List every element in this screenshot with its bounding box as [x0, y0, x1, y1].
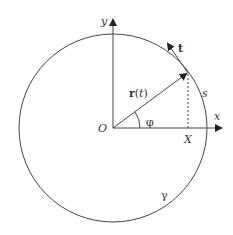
origin-label: O — [98, 122, 107, 135]
y-axis-label: y — [100, 15, 108, 28]
position-vector-label: r(t) — [129, 87, 148, 100]
angle-arc — [135, 112, 140, 128]
angle-label: φ — [146, 116, 154, 129]
x-axis-label: x — [214, 110, 221, 123]
circle-diagram: y x O t r(t) s φ X γ — [0, 0, 233, 235]
curve-label: γ — [161, 189, 168, 202]
tangent-label: t — [178, 42, 184, 55]
projection-label: X — [183, 133, 193, 146]
arc-length-label: s — [202, 87, 208, 100]
